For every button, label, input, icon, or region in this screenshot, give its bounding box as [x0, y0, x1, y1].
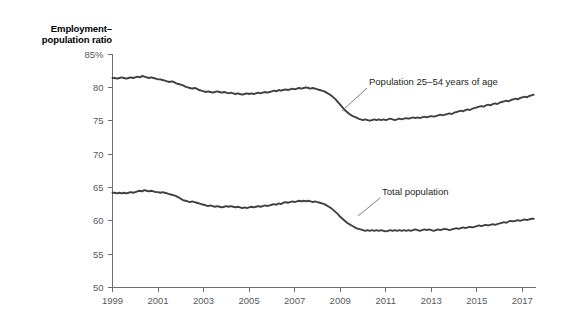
y-axis-title-line2: population ratio — [42, 34, 112, 45]
series-label-total-population: Total population — [382, 186, 449, 197]
chart-figure: Employment– population ratio 85%80757065… — [0, 0, 568, 317]
y-tick-label: 60 — [93, 215, 104, 226]
x-tick-label: 2017 — [512, 295, 533, 306]
x-tick-label: 2001 — [147, 295, 168, 306]
x-tick-label: 2009 — [330, 295, 351, 306]
x-tick-label: 2007 — [284, 295, 305, 306]
x-tick-label: 2015 — [466, 295, 487, 306]
y-tick-label: 55 — [93, 249, 104, 260]
employment-population-ratio-line-chart: Employment– population ratio 85%80757065… — [0, 0, 568, 317]
x-tick-label: 1999 — [102, 295, 123, 306]
y-tick-label: 70 — [93, 149, 104, 160]
y-axis-title-line1: Employment– — [51, 23, 112, 34]
y-tick-label: 80 — [93, 82, 104, 93]
y-tick-label: 65 — [93, 182, 104, 193]
y-tick-label: 50 — [93, 282, 104, 293]
x-tick-label: 2013 — [421, 295, 442, 306]
y-tick-label: 85% — [84, 49, 104, 60]
x-tick-label: 2011 — [376, 295, 396, 306]
series-label-prime-age: Population 25–54 years of age — [369, 76, 498, 87]
y-tick-label: 75 — [93, 115, 104, 126]
x-tick-label: 2005 — [239, 295, 260, 306]
x-tick-label: 2003 — [193, 295, 214, 306]
